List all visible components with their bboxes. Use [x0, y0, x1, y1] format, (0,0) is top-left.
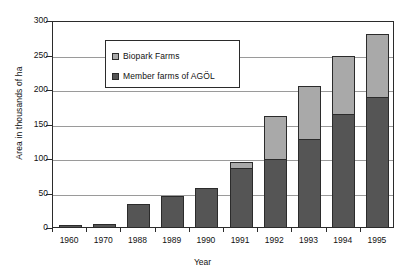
x-axis-tick-mark [86, 228, 87, 232]
legend-item-label: Member farms of AGÖL [123, 71, 215, 81]
bar-group [230, 162, 253, 227]
bar-group [332, 56, 355, 227]
x-axis-tick-mark [189, 228, 190, 232]
bar-segment [366, 34, 389, 97]
x-axis-tick-mark [360, 228, 361, 232]
dark-gray-swatch-icon [112, 73, 119, 80]
x-axis-tick-mark [291, 228, 292, 232]
bar-segment [264, 116, 287, 159]
bar-segment [59, 225, 82, 227]
bar-group [161, 196, 184, 227]
bar-group [298, 86, 321, 227]
x-axis-tick-mark [120, 228, 121, 232]
bar-group [195, 188, 218, 227]
y-axis-tick-label: 250 [20, 51, 48, 60]
y-axis-tick-label: 200 [20, 85, 48, 94]
legend-item-label: Biopark Farms [123, 51, 180, 61]
bar-segment [230, 168, 253, 227]
light-gray-swatch-icon [112, 53, 119, 60]
bar-group [93, 224, 116, 227]
stacked-bar-chart: Area in thousands of ha 0501001502002503… [0, 0, 405, 278]
legend-item: Biopark Farms [112, 46, 233, 66]
x-axis-tick-label: 1995 [357, 235, 397, 245]
bar-segment [332, 114, 355, 227]
bar-segment [332, 56, 355, 114]
bar-segment [161, 196, 184, 227]
bar-group [59, 225, 82, 227]
y-axis-tick-label: 150 [20, 120, 48, 129]
bar-group [366, 34, 389, 227]
y-axis-tick-label: 100 [20, 154, 48, 163]
bar-segment [264, 159, 287, 227]
y-axis-title: Area in thousands of ha [14, 38, 24, 188]
bar-segment [366, 97, 389, 227]
x-axis-title: Year [0, 257, 405, 267]
x-axis-tick-mark [52, 228, 53, 232]
bar-segment [298, 139, 321, 227]
x-axis-tick-mark [257, 228, 258, 232]
x-axis-tick-mark [223, 228, 224, 232]
bar-segment [298, 86, 321, 139]
chart-legend: Biopark Farms Member farms of AGÖL [105, 40, 240, 88]
bar-segment [93, 224, 116, 227]
y-axis-tick-label: 50 [20, 189, 48, 198]
x-axis-tick-mark [326, 228, 327, 232]
x-axis-tick-mark [155, 228, 156, 232]
y-axis-tick-label: 0 [20, 223, 48, 232]
bar-group [264, 116, 287, 227]
bar-group [127, 204, 150, 227]
bar-segment [127, 204, 150, 227]
bar-segment [195, 188, 218, 227]
y-axis-tick-label: 300 [20, 16, 48, 25]
legend-item: Member farms of AGÖL [112, 66, 233, 86]
